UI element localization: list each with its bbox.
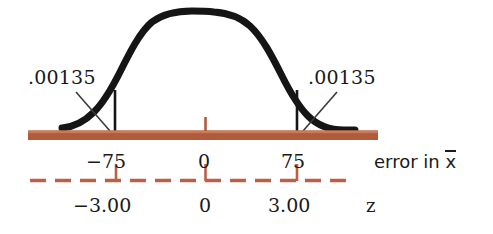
error-axis-title-text: error in — [374, 151, 445, 172]
error-axis-tick-label-zero: 0 — [198, 152, 210, 171]
z-axis-tick-label-zero: 0 — [199, 196, 211, 215]
z-axis-tick-label-pos3: 3.00 — [268, 196, 310, 215]
error-axis-bar-highlight — [28, 131, 378, 134]
error-axis-tick-label-pos75: 75 — [281, 152, 305, 171]
error-axis-title: error in x — [374, 153, 456, 171]
z-axis-tick-label-neg3: −3.00 — [73, 196, 131, 215]
normal-distribution-figure: .00135 .00135 −75 0 75 error in x −3.00 … — [0, 0, 493, 234]
error-axis-tick-label-neg75: −75 — [86, 152, 126, 171]
right-tail-probability-label: .00135 — [308, 68, 376, 87]
z-axis-title: z — [366, 197, 375, 215]
x-bar-symbol: x — [445, 153, 456, 171]
left-tail-probability-label: .00135 — [28, 68, 96, 87]
